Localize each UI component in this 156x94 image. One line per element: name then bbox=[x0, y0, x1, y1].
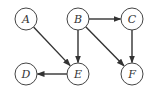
node-f: F bbox=[121, 63, 143, 85]
nodes-group: ABCDEF bbox=[15, 8, 143, 85]
directed-graph: ABCDEF bbox=[0, 0, 156, 94]
node-a: A bbox=[15, 8, 37, 30]
node-label: A bbox=[21, 13, 30, 26]
edge-a-to-e bbox=[34, 27, 71, 66]
node-label: F bbox=[127, 68, 136, 81]
node-label: E bbox=[73, 68, 82, 81]
node-label: D bbox=[21, 68, 31, 81]
node-b: B bbox=[67, 8, 89, 30]
node-label: C bbox=[128, 13, 137, 26]
node-d: D bbox=[15, 63, 37, 85]
node-e: E bbox=[67, 63, 89, 85]
edge-b-to-f bbox=[86, 27, 124, 66]
node-c: C bbox=[121, 8, 143, 30]
node-label: B bbox=[73, 13, 82, 26]
